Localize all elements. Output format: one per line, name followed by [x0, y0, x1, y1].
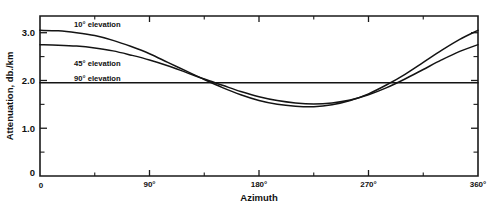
y-tick-label: 1.0 — [22, 123, 35, 134]
x-axis-title: Azimuth — [240, 192, 278, 203]
x-tick-label: 360° — [470, 180, 487, 189]
y-tick-label: 3.0 — [22, 27, 35, 38]
series-label-2: 90° elevation — [74, 74, 121, 83]
x-tick-label: 0 — [39, 181, 44, 190]
y-axis-title: Attenuation, db./km — [4, 52, 15, 141]
y-tick-label: 2.0 — [22, 75, 35, 86]
x-tick-label: 180° — [251, 180, 268, 189]
x-tick-label: 90° — [143, 180, 155, 189]
y-tick-label: 0 — [30, 167, 35, 178]
chart-canvas: 090°180°270°360° 01.02.03.0 10° elevatio… — [0, 0, 501, 215]
x-tick-label: 270° — [360, 180, 377, 189]
attenuation-azimuth-chart: 090°180°270°360° 01.02.03.0 10° elevatio… — [0, 0, 501, 215]
series-label-0: 10° elevation — [74, 20, 121, 29]
series-label-1: 45° elevation — [74, 59, 121, 68]
